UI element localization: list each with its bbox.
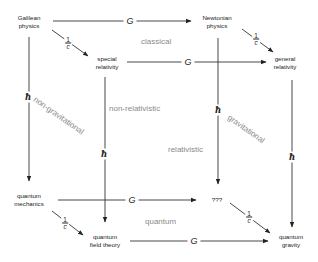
fraction-denominator: c <box>247 218 250 224</box>
node-quantum-mechanics: quantum mechanics <box>14 192 44 208</box>
node-quantum-gravity: quantum gravity <box>279 233 303 249</box>
edge-label-hbar: ħ <box>25 92 31 103</box>
edge-label-hbar: ħ <box>215 105 221 116</box>
node-label: ??? <box>212 196 222 204</box>
node-label: field theory <box>90 241 120 249</box>
fraction-denominator: c <box>63 224 66 230</box>
node-label: relativity <box>274 63 297 71</box>
edge-label-G: G <box>187 236 200 246</box>
region-label-non-relativistic: non-relativistic <box>109 104 160 113</box>
node-label: Newtonian <box>202 14 231 22</box>
edge-label-G: G <box>125 195 138 205</box>
node-general-relativity: general relativity <box>274 55 297 71</box>
edge-label-hbar: ħ <box>289 152 295 163</box>
edge-label-one-over-c: 1 c <box>252 33 260 46</box>
region-label-relativistic: relativistic <box>168 145 203 154</box>
region-label-quantum: quantum <box>145 217 176 226</box>
node-label: physics <box>202 22 231 30</box>
edge-label-one-over-c: 1 c <box>61 217 69 230</box>
node-quantum-field-theory: quantum field theory <box>90 233 120 249</box>
edge-label-one-over-c: 1 c <box>245 211 253 224</box>
fraction-denominator: c <box>66 44 69 50</box>
node-label: relativity <box>96 63 119 71</box>
node-label: general <box>274 55 297 63</box>
edge-label-hbar: ħ <box>101 149 107 160</box>
node-label: quantum <box>90 233 120 241</box>
edge-label-one-over-c: 1 c <box>64 37 72 50</box>
fraction-denominator: c <box>254 40 257 46</box>
node-label: quantum <box>279 233 303 241</box>
node-newtonian-physics: Newtonian physics <box>202 14 231 30</box>
node-special-relativity: special relativity <box>96 55 119 71</box>
node-unknown: ??? <box>212 196 222 204</box>
node-galilean-physics: Galilean physics <box>18 14 41 30</box>
node-label: physics <box>18 22 41 30</box>
region-label-classical: classical <box>141 37 171 46</box>
node-label: quantum <box>14 192 44 200</box>
edge-label-G: G <box>181 57 194 67</box>
node-label: gravity <box>279 241 303 249</box>
node-label: Galilean <box>18 14 41 22</box>
node-label: special <box>96 55 119 63</box>
node-label: mechanics <box>14 200 44 208</box>
edge-label-G: G <box>123 16 136 26</box>
